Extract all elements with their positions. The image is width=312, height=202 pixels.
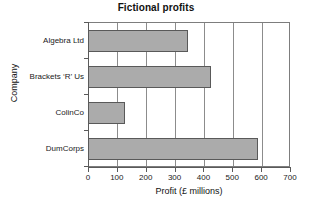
x-axis-title: Profit (£ millions) [88, 186, 290, 196]
y-tick-3 [84, 130, 88, 131]
x-tick-0 [88, 168, 89, 172]
y-axis-title: Company [9, 43, 19, 123]
bar-colinco[interactable] [88, 102, 125, 124]
x-axis-label-700: 700 [270, 173, 310, 182]
bars-layer [88, 22, 290, 167]
y-axis-line [88, 22, 89, 167]
x-tick-700 [290, 168, 291, 172]
x-tick-600 [261, 168, 262, 172]
bar-algebra-ltd[interactable] [88, 30, 188, 52]
y-tick-2 [84, 94, 88, 95]
chart-title: Fictional profits [0, 2, 312, 13]
bar-dumcorps[interactable] [88, 138, 258, 160]
y-tick-0 [84, 22, 88, 23]
bar-chart: Fictional profits Algebra Ltd Brackets ‘… [0, 0, 312, 202]
x-tick-200 [146, 168, 147, 172]
y-axis-label-dumcorps: DumCorps [0, 144, 84, 153]
y-tick-1 [84, 58, 88, 59]
x-tick-300 [175, 168, 176, 172]
x-tick-500 [232, 168, 233, 172]
x-tick-100 [117, 168, 118, 172]
x-tick-400 [203, 168, 204, 172]
bar-brackets-r-us[interactable] [88, 66, 211, 88]
